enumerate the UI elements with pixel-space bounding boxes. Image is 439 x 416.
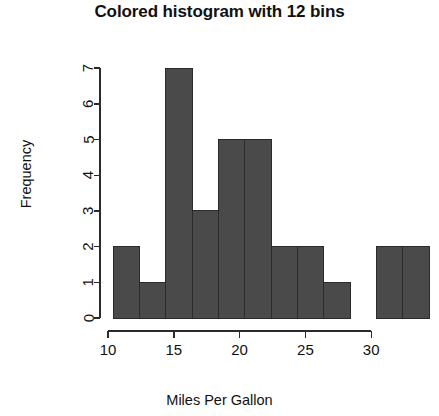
histogram-bar	[271, 247, 297, 318]
histogram-bar	[298, 247, 324, 318]
y-axis-tick-label: 0	[80, 314, 97, 322]
x-axis-tick-label: 30	[363, 341, 380, 358]
y-axis-tick-label: 6	[80, 100, 97, 108]
histogram-bar	[113, 247, 139, 318]
histogram-bar	[245, 140, 271, 319]
y-axis-tick-label: 3	[80, 207, 97, 215]
y-axis-tick-label: 2	[80, 242, 97, 250]
histogram-bar	[140, 282, 166, 318]
histogram-bar	[166, 68, 192, 318]
x-axis-tick-label: 20	[231, 341, 248, 358]
y-axis-tick-label: 4	[80, 171, 97, 179]
plot-area: 01234567 1015202530	[0, 0, 439, 416]
x-axis: 1015202530	[100, 331, 380, 358]
bars-group	[113, 68, 429, 318]
x-axis-tick-label: 25	[297, 341, 314, 358]
histogram-bar	[324, 282, 350, 318]
y-axis: 01234567	[80, 64, 101, 322]
histogram-bar	[376, 247, 402, 318]
histogram-figure: Colored histogram with 12 bins Frequency…	[0, 0, 439, 416]
x-axis-tick-label: 15	[165, 341, 182, 358]
y-axis-tick-label: 7	[80, 64, 97, 72]
histogram-bar	[219, 140, 245, 319]
histogram-bar	[192, 211, 218, 318]
histogram-bar	[403, 247, 429, 318]
y-axis-tick-label: 5	[80, 135, 97, 143]
y-axis-tick-label: 1	[80, 278, 97, 286]
x-axis-tick-label: 10	[100, 341, 117, 358]
